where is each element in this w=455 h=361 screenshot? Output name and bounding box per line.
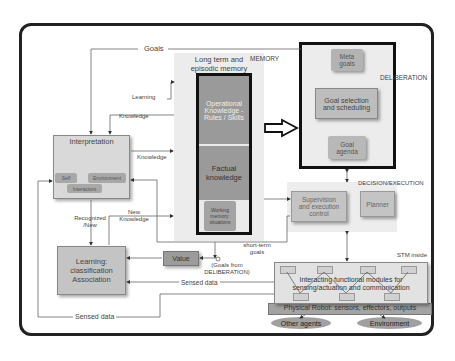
- operational-line1: Operational: [206, 100, 242, 107]
- module-slot: [280, 266, 296, 274]
- knowledge-top-label: Knowledge: [119, 113, 149, 120]
- other-agents-oval: Other agents: [271, 317, 331, 329]
- goal-sel-line1: Goal selection: [324, 97, 368, 104]
- goal-agenda: Goal agenda: [328, 136, 366, 159]
- agenda-line1: Goal: [340, 141, 354, 148]
- supervision-line1: Supervision: [302, 196, 336, 203]
- stm-label: STM inside: [397, 252, 427, 259]
- short-term-goals-label: short-term goals: [236, 242, 278, 256]
- decision-region-label: DECISION/EXECUTION: [358, 180, 424, 187]
- learning-line3: Association: [72, 275, 110, 284]
- sensed-data-inner-label: Sensed data: [179, 279, 220, 286]
- factual-line1: Factual: [212, 164, 237, 173]
- physical-robot-label: Physical Robot: sensors, effectors, outp…: [268, 304, 432, 312]
- new-knowledge-label: New Knowledge: [113, 209, 155, 223]
- module-slot: [360, 266, 376, 274]
- self-label: Self: [62, 175, 71, 181]
- goals-from-line1: (Goals from: [200, 262, 254, 269]
- environment-oval-label: Environment: [370, 320, 409, 327]
- recognized-line1: Recognized: [70, 215, 110, 222]
- meta-line1: Meta: [340, 53, 354, 60]
- environment-box: Environment: [88, 173, 126, 183]
- goals-label: Goals: [142, 45, 166, 54]
- environment-label: Environment: [93, 175, 121, 181]
- recognized-new-label: Recognized /New: [70, 215, 110, 229]
- supervision-line2: and execution: [299, 203, 339, 210]
- short-term-line1: short-term: [236, 242, 278, 249]
- meta-line2: goals: [339, 60, 355, 67]
- learning-line2: classification: [70, 266, 113, 275]
- module-slot: [384, 293, 400, 301]
- module-slot: [317, 266, 333, 274]
- working-memory: Working memory: situations: [204, 201, 236, 231]
- operational-line2: Knowledge -: [205, 107, 244, 114]
- goal-selection: Goal selection and scheduling: [315, 88, 378, 119]
- self-box: Self: [55, 173, 77, 183]
- factual-line2: knowledge: [206, 173, 242, 182]
- agenda-line2: agenda: [336, 148, 358, 155]
- supervision-line3: control: [309, 210, 329, 217]
- value-box: Value: [163, 251, 199, 266]
- memory-region-label: MEMORY: [250, 55, 279, 62]
- meta-goals: Meta goals: [331, 49, 363, 71]
- interpretation-title: Interpretation: [53, 138, 130, 147]
- new-knowledge-line1: New: [113, 209, 155, 216]
- operational-knowledge: Operational Knowledge - Rules / Skills: [199, 76, 249, 144]
- knowledge-mid-label: Knowledge: [137, 154, 167, 161]
- recognized-line2: /New: [70, 222, 110, 229]
- deliberation-region-label: DELIBERATION: [380, 74, 427, 81]
- planner-label: Planner: [366, 201, 388, 208]
- memory-title-line2: episodic memory: [174, 65, 264, 74]
- value-label: Value: [172, 255, 189, 262]
- planner: Planner: [360, 191, 395, 217]
- interactors-label: Interactors: [73, 186, 97, 192]
- modules-label: Interacting functional modules for sensi…: [274, 276, 428, 292]
- learning-label: Learning: [132, 94, 155, 101]
- modules-line1: Interacting functional modules for: [274, 276, 428, 284]
- factual-knowledge: Factual knowledge: [199, 146, 249, 200]
- learning-line1: Learning:: [76, 257, 107, 266]
- modules-line2: sensing/actuation and communication: [274, 284, 428, 292]
- interactors-box: Interactors: [67, 184, 102, 193]
- goals-from-deliberation-label: (Goals from DELIBERATION): [200, 262, 254, 276]
- module-slot: [401, 266, 417, 274]
- module-slot: [339, 293, 355, 301]
- module-slot: [293, 293, 309, 301]
- sensed-data-outer-label: Sensed data: [73, 313, 116, 321]
- environment-oval: Environment: [357, 317, 422, 329]
- new-knowledge-line2: Knowledge: [113, 216, 155, 223]
- learning-box: Learning: classification Association: [57, 246, 126, 295]
- operational-line3: Rules / Skills: [204, 114, 244, 121]
- goals-from-line2: DELIBERATION): [200, 269, 254, 276]
- supervision-control: Supervision and execution control: [291, 191, 347, 222]
- short-term-line2: goals: [236, 249, 278, 256]
- working-line3: situations: [209, 219, 230, 225]
- goal-sel-line2: and scheduling: [323, 104, 370, 111]
- other-agents-label: Other agents: [281, 320, 321, 327]
